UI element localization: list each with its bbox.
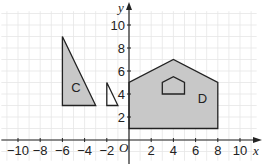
y-tick-label: 6: [118, 64, 125, 79]
x-tick-label: 2: [148, 143, 155, 158]
y-axis-arrow-icon: [126, 2, 132, 10]
grid-plot: CD−10−8−6−4−2246810246810Oyx: [0, 0, 262, 165]
x-tick-label: −4: [77, 143, 92, 158]
y-tick-label: 2: [118, 110, 125, 125]
x-tick-label: 10: [233, 143, 247, 158]
y-tick-label: 4: [118, 87, 125, 102]
x-tick-label: −6: [55, 143, 70, 158]
origin-label: O: [119, 140, 129, 155]
y-tick-label: 10: [111, 18, 125, 33]
x-tick-label: −8: [33, 143, 48, 158]
coordinate-diagram: CD−10−8−6−4−2246810246810Oyx: [0, 0, 262, 165]
x-axis-label: x: [252, 143, 259, 158]
x-tick-label: −2: [99, 143, 114, 158]
y-tick-label: 8: [118, 41, 125, 56]
x-tick-label: 4: [170, 143, 177, 158]
x-tick-label: 8: [214, 143, 221, 158]
y-axis-label: y: [116, 0, 124, 15]
shape-label: D: [198, 91, 207, 106]
x-tick-label: 6: [192, 143, 199, 158]
shape-label: C: [71, 80, 80, 95]
x-tick-label: −10: [7, 143, 29, 158]
